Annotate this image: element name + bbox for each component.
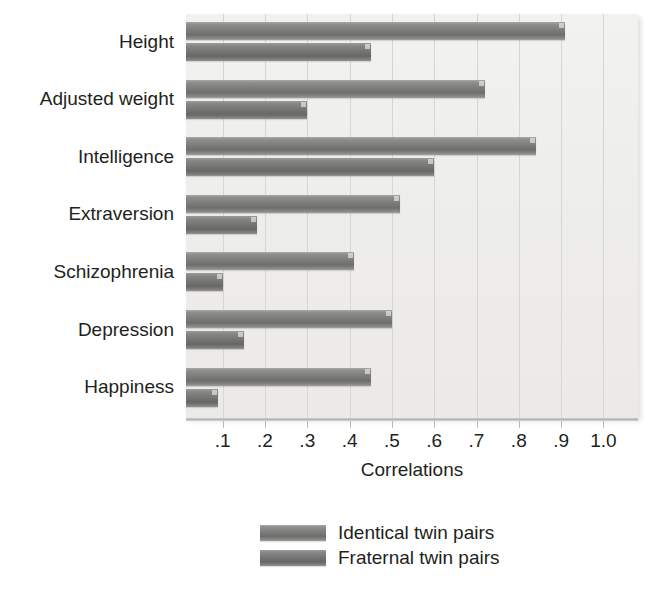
category-label-adjusted-weight: Adjusted weight [40,88,174,110]
x-tick-label-3: .4 [342,429,358,452]
x-tick-label-6: .7 [469,429,485,452]
x-tick-6 [477,421,478,428]
x-tick-0 [223,421,224,428]
gridline-p3 [307,14,308,418]
bar-intelligence-fraternal [186,158,434,176]
bar-intelligence-identical [186,137,536,155]
legend-item-identical: Identical twin pairs [260,520,668,545]
x-tick-1 [265,421,266,428]
legend-swatch-identical [260,525,326,541]
bar-highlight [530,138,535,143]
bar-highlight [212,390,217,395]
bar-highlight [238,332,243,337]
x-tick-label-2: .3 [299,429,315,452]
legend-swatch-fraternal [260,550,326,566]
bar-adjusted-weight-fraternal [186,101,307,119]
x-tick-8 [561,421,562,428]
legend-item-fraternal: Fraternal twin pairs [260,545,668,570]
category-label-happiness: Happiness [84,376,174,398]
bar-highlight [301,102,306,107]
gridline-p9 [561,14,562,418]
bar-height-identical [186,22,565,40]
bar-highlight [394,196,399,201]
category-label-intelligence: Intelligence [78,146,174,168]
x-tick-label-0: .1 [215,429,231,452]
bar-highlight [217,274,222,279]
gridline-p7 [477,14,478,418]
gridline-p6 [434,14,435,418]
x-tick-label-7: .8 [511,429,527,452]
bar-highlight [559,23,564,28]
category-label-schizophrenia: Schizophrenia [54,261,174,283]
x-tick-7 [519,421,520,428]
x-tick-label-4: .5 [384,429,400,452]
gridline-p2 [265,14,266,418]
plot-area [186,14,638,418]
bar-highlight [479,81,484,86]
bar-depression-fraternal [186,331,244,349]
x-tick-2 [307,421,308,428]
legend: Identical twin pairsFraternal twin pairs [0,520,668,570]
gridline-p4 [350,14,351,418]
category-label-depression: Depression [78,319,174,341]
bar-highlight [251,217,256,222]
bar-height-fraternal [186,43,371,61]
x-tick-3 [350,421,351,428]
x-tick-label-8: .9 [553,429,569,452]
gridline-1p0 [603,14,604,418]
bar-happiness-identical [186,368,371,386]
bar-highlight [428,159,433,164]
legend-label-identical: Identical twin pairs [338,522,494,544]
bar-chart-figure: .1.2.3.4.5.6.7.8.91.0 Correlations Heigh… [0,0,668,602]
x-tick-5 [434,421,435,428]
x-tick-4 [392,421,393,428]
gridline-p8 [519,14,520,418]
bar-highlight [365,369,370,374]
x-tick-9 [603,421,604,428]
bar-adjusted-weight-identical [186,80,485,98]
bar-schizophrenia-identical [186,252,354,270]
bar-extraversion-identical [186,195,400,213]
x-axis-title: Correlations [186,459,638,481]
bar-happiness-fraternal [186,389,218,407]
gridline-p5 [392,14,393,418]
bar-highlight [386,311,391,316]
bar-highlight [365,44,370,49]
x-tick-label-9: 1.0 [590,429,616,452]
x-tick-label-1: .2 [257,429,273,452]
category-label-height: Height [119,31,174,53]
category-label-extraversion: Extraversion [68,203,174,225]
bar-highlight [348,253,353,258]
bar-schizophrenia-fraternal [186,273,223,291]
legend-label-fraternal: Fraternal twin pairs [338,547,500,569]
x-tick-label-5: .6 [426,429,442,452]
x-axis-line [186,418,638,421]
bar-depression-identical [186,310,392,328]
bar-extraversion-fraternal [186,216,257,234]
